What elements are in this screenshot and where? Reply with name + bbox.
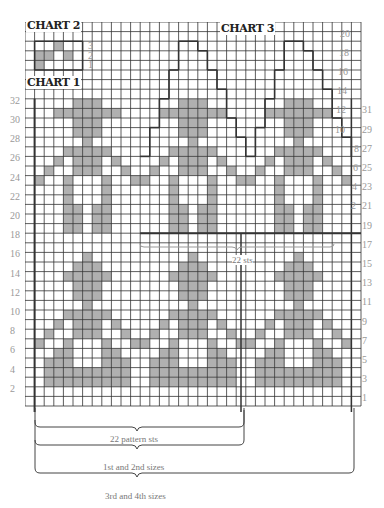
braces xyxy=(0,0,384,508)
